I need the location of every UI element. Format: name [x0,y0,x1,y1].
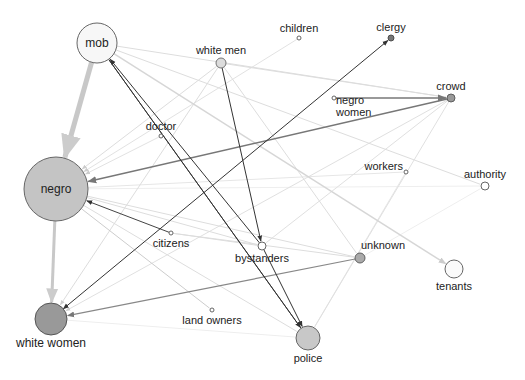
node-label: children [280,22,319,34]
node-circle[interactable] [258,242,266,250]
node-label: police [294,352,323,364]
node-children[interactable]: children [280,22,319,40]
node-label: unknown [361,239,405,251]
node-label: mob [85,36,109,50]
edge-white_women-to-police [67,320,295,337]
node-label: women [335,106,371,118]
node-circle[interactable] [447,94,455,102]
node-workers[interactable]: workers [363,160,408,174]
node-negro[interactable]: negro [24,157,88,221]
node-label: citizens [153,237,190,249]
edge-mob-to-negro [65,62,92,157]
edge-white_women-to-clergy [63,41,388,309]
node-label: negro [336,94,364,106]
node-label: workers [363,160,403,172]
node-label: bystanders [235,252,289,264]
node-label: white women [15,336,86,350]
node-label: authority [464,168,507,180]
node-white-men[interactable]: white men [195,44,246,68]
node-label: clergy [376,21,406,33]
edge-negro-to-white_women [52,221,55,302]
edge-bystanders-to-mob [110,59,259,243]
edge-mob-to-authority [116,50,481,184]
node-circle[interactable] [404,170,408,174]
node-tenants[interactable]: tenants [436,260,473,292]
edge-crowd-to-white_women [66,100,448,311]
node-label: land owners [182,314,242,326]
edge-white_men-to-bystanders [222,68,261,241]
edge-negro-to-police [84,205,297,331]
node-label: tenants [436,280,473,292]
node-land-owners[interactable]: land owners [182,308,242,326]
node-citizens[interactable]: citizens [153,231,190,249]
node-label: doctor [146,120,177,132]
edges-layer [52,39,481,337]
node-circle[interactable] [355,253,365,263]
node-circle[interactable] [216,58,226,68]
edge-white_men-to-negro [82,66,217,169]
node-circle[interactable] [297,36,301,40]
node-circle[interactable] [159,134,163,138]
node-authority[interactable]: authority [464,168,507,190]
node-unknown[interactable]: unknown [355,239,405,263]
edge-unknown-to-white_women [68,259,355,316]
edge-crowd-to-police [315,101,449,326]
node-bystanders[interactable]: bystanders [235,242,289,264]
node-label: crowd [436,80,465,92]
edge-mob-to-police [109,59,301,327]
node-circle[interactable] [296,326,320,350]
node-circle[interactable] [388,35,394,41]
node-circle[interactable] [445,260,463,278]
node-circle[interactable] [481,182,489,190]
node-clergy[interactable]: clergy [376,21,406,41]
node-label: white men [195,44,246,56]
edge-crowd-to-bystanders [266,101,448,243]
node-circle[interactable] [169,231,173,235]
node-mob[interactable]: mob [77,23,117,63]
node-circle[interactable] [210,308,214,312]
network-graph: mobwhite menchildrenclergycrowdnegrowome… [0,0,525,380]
node-white-women[interactable]: white women [15,303,86,350]
node-police[interactable]: police [294,326,323,364]
edge-negro-to-authority [88,186,480,189]
edge-white_men-to-crowd [226,64,446,97]
node-label: negro [41,182,72,196]
node-circle[interactable] [35,303,67,335]
